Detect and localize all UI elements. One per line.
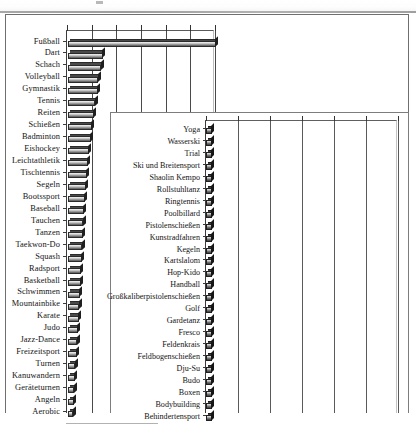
- inset-category-label: Ski und Breitensport: [133, 161, 200, 170]
- inset-category-label: Fresco: [178, 328, 200, 337]
- inset-x-tick: [238, 116, 239, 121]
- main-category-label: Schach: [35, 60, 60, 70]
- main-bar-front-face: [68, 280, 81, 286]
- main-bar-end-cap: [73, 406, 76, 417]
- main-bar-end-cap: [88, 143, 91, 154]
- main-bar-front-face: [68, 256, 82, 262]
- inset-category-label: Hop-Kido: [167, 268, 200, 277]
- main-bar: [68, 313, 79, 321]
- main-y-tick: [63, 112, 67, 113]
- main-y-tick: [63, 136, 67, 137]
- main-x-tick: [92, 25, 93, 31]
- main-category-label: Tennis: [37, 96, 60, 106]
- inset-category-label: Pistolenschießen: [146, 221, 200, 230]
- main-bar-front-face: [68, 136, 91, 142]
- main-bar-front-face: [68, 77, 98, 83]
- main-bar: [68, 39, 216, 47]
- main-x-tick: [116, 25, 117, 31]
- inset-plot-area: YogaWasserskiTrialSki und BreitensportSh…: [205, 120, 397, 413]
- main-bar: [68, 361, 75, 369]
- main-y-tick: [63, 387, 67, 388]
- main-bar-end-cap: [77, 335, 80, 346]
- main-bar: [68, 134, 91, 142]
- inset-category-label: Behindertensport: [144, 412, 200, 421]
- main-baseline-artifact: [66, 423, 158, 424]
- inset-bar-end-cap: [211, 135, 214, 146]
- main-bar-end-cap: [95, 96, 98, 107]
- main-bar: [68, 301, 79, 309]
- main-category-label: Reiten: [38, 108, 60, 118]
- main-bar: [68, 266, 81, 274]
- main-bar-end-cap: [79, 299, 82, 310]
- inset-bar: [206, 257, 212, 265]
- main-category-label: Taekwon-Do: [15, 240, 60, 250]
- main-bar-front-face: [68, 208, 84, 214]
- inset-bar: [206, 126, 212, 134]
- main-category-label: Bootssport: [23, 192, 60, 202]
- main-x-tick: [141, 25, 142, 31]
- main-y-tick: [63, 303, 67, 304]
- inset-bar-end-cap: [211, 398, 214, 409]
- inset-category-label: Feldenkrais: [162, 340, 200, 349]
- main-bar-end-cap: [75, 358, 78, 369]
- main-category-label: Turnen: [36, 359, 61, 369]
- main-y-tick: [63, 232, 67, 233]
- inset-bar-end-cap: [211, 171, 214, 182]
- inset-category-label: Gardetanz: [167, 316, 200, 325]
- inset-bar: [206, 353, 212, 361]
- main-category-label: Schwimmen: [17, 287, 60, 297]
- main-category-label: Schießen: [29, 120, 61, 130]
- main-category-label: Mountainbike: [12, 299, 60, 309]
- main-y-tick: [63, 291, 67, 292]
- inset-category-label: Bodybuilding: [155, 400, 200, 409]
- main-bar: [68, 62, 101, 70]
- inset-bar: [206, 222, 212, 230]
- main-category-label: Angeln: [35, 395, 60, 405]
- scan-artifact-strip: [0, 0, 416, 13]
- inset-bar: [206, 269, 212, 277]
- main-bar-front-face: [68, 172, 87, 178]
- main-bar-end-cap: [82, 227, 85, 238]
- inset-bar-end-cap: [211, 207, 214, 218]
- inset-category-label: Ringtennis: [165, 197, 200, 206]
- main-y-tick: [63, 363, 67, 364]
- inset-bar-end-cap: [211, 243, 214, 254]
- main-category-label: Freizeitsport: [16, 347, 60, 357]
- main-bar-end-cap: [87, 155, 90, 166]
- main-y-tick: [63, 327, 67, 328]
- inset-bar: [206, 305, 212, 313]
- main-y-tick: [63, 196, 67, 197]
- inset-bar-end-cap: [211, 183, 214, 194]
- inset-bar: [206, 401, 212, 409]
- inset-bar: [206, 413, 212, 421]
- inset-bar: [206, 234, 212, 242]
- main-y-tick: [63, 351, 67, 352]
- inset-bar: [206, 365, 212, 373]
- inset-category-label: Yoga: [183, 125, 200, 134]
- main-category-label: Kanuwandern: [12, 371, 60, 381]
- main-bar-front-face: [68, 112, 94, 118]
- main-bar: [68, 194, 85, 202]
- main-category-label: Leichtathletik: [12, 156, 60, 166]
- main-bar: [68, 206, 84, 214]
- main-bar-front-face: [68, 100, 95, 106]
- main-bar: [68, 98, 95, 106]
- main-bar: [68, 242, 82, 250]
- main-bar: [68, 182, 86, 190]
- main-category-label: Badminton: [22, 132, 60, 142]
- main-bar-front-face: [68, 124, 92, 130]
- inset-bar: [206, 210, 212, 218]
- main-bar-front-face: [68, 148, 89, 154]
- main-y-tick: [63, 172, 67, 173]
- main-y-tick: [63, 315, 67, 316]
- inset-bar-end-cap: [211, 231, 214, 242]
- inset-category-label: Wasserski: [167, 137, 200, 146]
- inset-category-label: Trial: [185, 149, 200, 158]
- main-bar: [68, 218, 83, 226]
- main-bar-end-cap: [98, 72, 101, 83]
- main-category-label: Tauchen: [31, 216, 60, 226]
- main-bar-front-face: [68, 304, 79, 310]
- inset-x-tick: [334, 116, 335, 121]
- main-bar-end-cap: [76, 346, 79, 357]
- main-bar-end-cap: [74, 370, 77, 381]
